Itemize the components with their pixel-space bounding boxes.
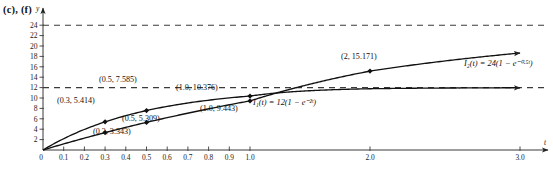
point-label-0-3-5-414: (0.3, 5.414) [57,96,95,105]
y-tick-label: 14 [30,73,38,82]
y-tick-label: 4 [34,125,38,134]
point-label-0-5-7-585: (0.5, 7.585) [99,75,137,84]
equation-label-i1: I₁(t) = 12(1 − e⁻²ᵗ) [252,98,316,107]
y-tick-label: 10 [30,94,38,103]
x-tick-label: 0.4 [121,153,131,162]
y-tick-label: 22 [30,31,38,40]
point-label-1-0-10-376: (1.0, 10.376) [176,83,218,92]
x-tick-label: 0.1 [59,153,69,162]
annotation-group: (0.3, 5.414)(0.5, 7.585)(1.0, 10.376)(2,… [57,52,533,136]
y-tick-label: 24 [30,21,38,30]
data-point-I2 [367,69,372,74]
y-tick-label: 16 [30,63,38,72]
y-axis-name: y [35,4,40,13]
data-point-I2 [103,119,108,124]
point-label-0-5-5-309: (0.5, 5.309) [122,114,160,123]
x-tick-label: 0.8 [204,153,214,162]
point-label-1-0-9-443: (1.0, 9.443) [200,104,238,113]
x-tick-label: 1.0 [245,153,255,162]
x-tick-label: 0.9 [225,153,235,162]
data-point-I2 [144,108,149,113]
x-tick-label: 0 [39,153,43,162]
y-tick-label: 20 [30,42,38,51]
equation-label-i2: I₂(t) = 24(1 − e⁻⁰·⁵ᵗ) [463,59,533,68]
y-tick-label: 12 [30,83,38,92]
x-tick-label: 0.3 [100,153,110,162]
x-tick-label: 0.7 [183,153,193,162]
x-tick-label: 0.6 [163,153,173,162]
point-label-2-15-171: (2, 15.171) [341,52,377,61]
x-tick-label: 0.2 [80,153,90,162]
data-point-I2 [247,93,252,98]
exponential-growth-chart: 2468101214161820222400.10.20.30.40.50.60… [0,0,553,170]
x-tick-label: 3.0 [515,153,525,162]
x-axis-name: t [544,138,547,147]
x-tick-label: 0.5 [142,153,152,162]
x-tick-label: 2.0 [365,153,375,162]
y-tick-label: 6 [34,115,38,124]
point-label-0-3-3-343: (0.3, 3.343) [93,127,131,136]
y-tick-label: 18 [30,52,38,61]
y-tick-label: 8 [34,104,38,113]
data-point-I1 [247,98,252,103]
y-tick-label: 2 [34,135,38,144]
figure-panel: (c), (f) 2468101214161820222400.10.20.30… [0,0,553,170]
